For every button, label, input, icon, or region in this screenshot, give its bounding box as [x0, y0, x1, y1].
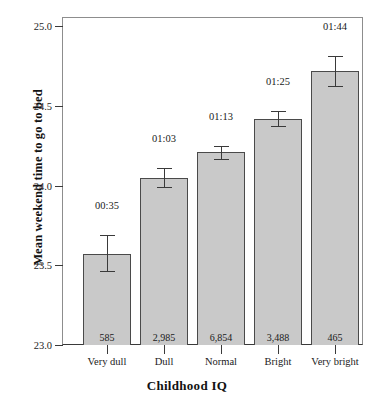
x-axis-tick-mark [278, 345, 279, 354]
error-bar-cap-upper [157, 168, 172, 169]
error-bar-cap-lower [328, 86, 343, 87]
x-axis-title: Childhood IQ [0, 378, 374, 394]
x-axis-category-label: Bright [265, 356, 292, 367]
error-bar-stem [164, 168, 165, 187]
error-bar-cap-upper [271, 111, 286, 112]
error-bar-stem [335, 56, 336, 86]
y-axis-tick-label: 23.0 [6, 340, 52, 351]
bar-count-label: 585 [84, 332, 130, 343]
error-bar-stem [221, 146, 222, 160]
y-axis-tick-label: 24.5 [6, 100, 52, 111]
bar: 2,985 [140, 178, 188, 345]
x-axis-tick-mark [107, 345, 108, 354]
y-axis-tick-mark [55, 265, 63, 266]
bar: 465 [311, 71, 359, 345]
bar-value-label: 01:25 [266, 76, 290, 87]
error-bar-cap-upper [328, 56, 343, 57]
bar-count-label: 465 [312, 332, 358, 343]
error-bar-cap-lower [157, 187, 172, 188]
bar-value-label: 01:13 [209, 110, 233, 121]
y-axis-tick-mark [55, 345, 63, 346]
bar-chart-figure: Mean weekend time to go to bed 23.023.52… [0, 0, 374, 407]
bar-count-label: 3,488 [255, 332, 301, 343]
bar-count-label: 6,854 [198, 332, 244, 343]
error-bar-cap-upper [100, 235, 115, 236]
x-axis-category-label: Normal [205, 356, 237, 367]
x-axis-category-label: Very dull [88, 356, 127, 367]
bar: 3,488 [254, 119, 302, 345]
error-bar-cap-lower [271, 126, 286, 127]
error-bar-stem [278, 111, 279, 125]
bar: 6,854 [197, 152, 245, 345]
error-bar-cap-lower [100, 271, 115, 272]
x-axis-category-label: Very bright [311, 356, 359, 367]
error-bar-cap-lower [214, 159, 229, 160]
error-bar-stem [107, 235, 108, 271]
error-bar-cap-upper [214, 146, 229, 147]
x-axis-category-label: Dull [155, 356, 174, 367]
y-axis-tick-mark [55, 26, 63, 27]
y-axis-tick-label: 23.5 [6, 260, 52, 271]
y-axis-tick-mark [55, 106, 63, 107]
x-axis-tick-mark [221, 345, 222, 354]
y-axis-tick-label: 24.0 [6, 180, 52, 191]
x-axis-tick-mark [164, 345, 165, 354]
bar-count-label: 2,985 [141, 332, 187, 343]
bar-value-label: 00:35 [95, 199, 119, 210]
y-axis-tick-mark [55, 186, 63, 187]
bar-value-label: 01:44 [323, 20, 347, 31]
y-axis-tick-label: 25.0 [6, 21, 52, 32]
bar-value-label: 01:03 [152, 132, 176, 143]
x-axis-tick-mark [335, 345, 336, 354]
